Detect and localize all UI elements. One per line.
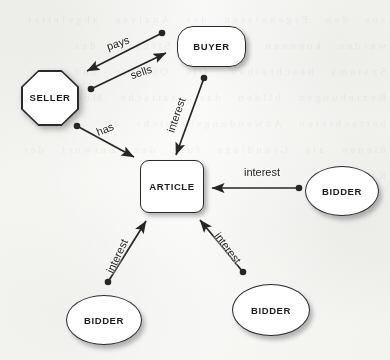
node-seller-fill: SELLER	[23, 72, 78, 125]
node-seller-outline: SELLER	[21, 70, 79, 126]
node-buyer[interactable]: BUYER	[177, 26, 246, 67]
node-bidder-right-label: BIDDER	[322, 185, 362, 196]
node-bidder-bottom-right[interactable]: BIDDER	[232, 284, 310, 336]
node-bidder-bottom-left-label: BIDDER	[84, 314, 124, 325]
edge-label-interest-bidder-right: interest	[244, 166, 280, 178]
node-article[interactable]: ARTICLE	[140, 160, 204, 213]
node-seller[interactable]: SELLER	[21, 70, 79, 126]
node-bidder-right[interactable]: BIDDER	[305, 166, 379, 216]
node-bidder-bottom-left[interactable]: BIDDER	[66, 295, 142, 345]
edge-interest-bidder-right	[212, 185, 302, 192]
diagram-canvas: aus den Ergebnissen der Analyse abgeleit…	[0, 0, 390, 360]
edge-sells	[88, 53, 166, 92]
node-article-label: ARTICLE	[149, 181, 194, 192]
node-seller-label: SELLER	[29, 92, 70, 103]
node-buyer-label: BUYER	[193, 41, 229, 52]
node-bidder-bottom-right-label: BIDDER	[251, 304, 291, 315]
